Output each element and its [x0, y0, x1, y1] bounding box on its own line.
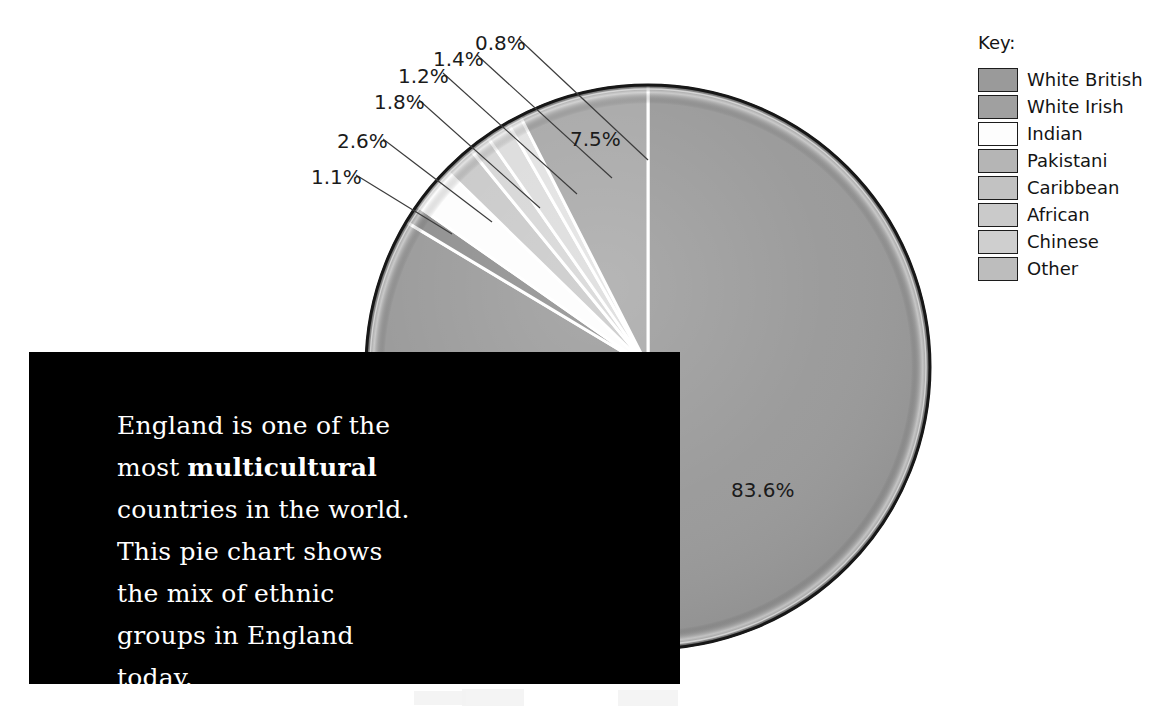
legend-item: Caribbean: [978, 174, 1168, 201]
caption-line-3: countries in the world.: [117, 495, 410, 524]
legend-swatch: [978, 122, 1018, 146]
legend: Key: White BritishWhite IrishIndianPakis…: [978, 33, 1168, 282]
pct-label-pakistani: 1.8%: [374, 90, 425, 114]
pct-label-white-british: 83.6%: [731, 478, 795, 502]
caption-line-1: England is one of the: [117, 411, 390, 440]
legend-title: Key:: [978, 33, 1168, 53]
legend-item: Other: [978, 255, 1168, 282]
caption-bold-word: multicultural: [188, 453, 377, 482]
pct-label-white-irish: 1.1%: [311, 165, 362, 189]
legend-swatch: [978, 176, 1018, 200]
pct-label-indian: 2.6%: [337, 129, 388, 153]
legend-item: African: [978, 201, 1168, 228]
scan-artifact-2: [462, 689, 524, 706]
legend-swatch: [978, 203, 1018, 227]
legend-swatch: [978, 230, 1018, 254]
legend-swatch: [978, 257, 1018, 281]
scan-artifact-3: [618, 690, 678, 706]
caption-line-2-prefix: most: [117, 453, 188, 482]
legend-item: Pakistani: [978, 147, 1168, 174]
legend-swatch: [978, 68, 1018, 92]
legend-item-label: Chinese: [1027, 232, 1099, 252]
legend-item-label: Pakistani: [1027, 151, 1107, 171]
legend-swatch: [978, 95, 1018, 119]
legend-item: Indian: [978, 120, 1168, 147]
pct-label-caribbean: 1.2%: [398, 64, 449, 88]
legend-item-label: Caribbean: [1027, 178, 1119, 198]
legend-item: White British: [978, 66, 1168, 93]
legend-item-label: African: [1027, 205, 1090, 225]
legend-item-label: White British: [1027, 70, 1143, 90]
legend-item-label: White Irish: [1027, 97, 1124, 117]
pct-label-other: 7.5%: [570, 127, 621, 151]
scan-artifact-1: [414, 691, 466, 705]
caption-text: England is one of the most multicultural…: [117, 405, 417, 699]
legend-rows: White BritishWhite IrishIndianPakistaniC…: [978, 66, 1168, 282]
chart-canvas: 0.8% 1.4% 1.2% 1.8% 2.6% 1.1% 7.5% 83.6%…: [0, 0, 1174, 708]
legend-item: Chinese: [978, 228, 1168, 255]
legend-item-label: Other: [1027, 259, 1078, 279]
legend-swatch: [978, 149, 1018, 173]
legend-item: White Irish: [978, 93, 1168, 120]
caption-box: England is one of the most multicultural…: [29, 352, 680, 684]
legend-item-label: Indian: [1027, 124, 1083, 144]
